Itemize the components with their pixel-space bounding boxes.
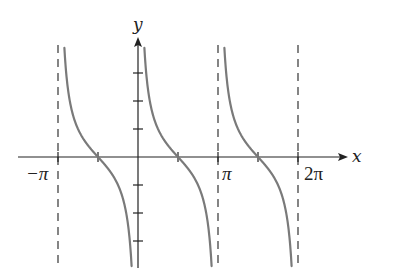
x-axis-label: x bbox=[352, 148, 362, 165]
cotangent-curves bbox=[64, 48, 291, 266]
x-tick-label-pi: π bbox=[222, 164, 232, 183]
cotangent-chart: y x −π π 2π bbox=[0, 0, 396, 273]
y-axis-label: y bbox=[133, 16, 143, 33]
x-tick-label-2pi: 2π bbox=[304, 164, 323, 183]
x-tick-label-neg-pi: −π bbox=[26, 164, 48, 183]
plot-area bbox=[0, 0, 396, 273]
